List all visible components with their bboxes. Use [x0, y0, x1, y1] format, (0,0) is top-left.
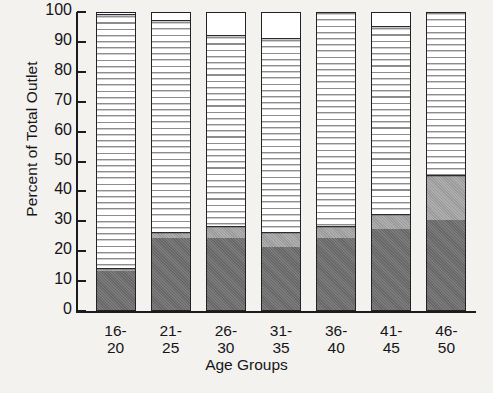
y-axis-title: Percent of Total Outlet — [23, 29, 41, 249]
y-axis-tick: 100 — [77, 11, 86, 13]
bar-segment-dark-gray-segment — [97, 271, 135, 310]
y-axis-tick: 10 — [77, 280, 86, 282]
bar-segment-white-segment — [262, 12, 300, 38]
bar-segment-striped-segment — [152, 20, 190, 232]
y-axis-tick-label: 70 — [54, 91, 72, 109]
bar-segment-white-segment — [152, 12, 190, 20]
y-axis-tick: 80 — [77, 71, 86, 73]
bar-segment-striped-segment — [317, 12, 355, 226]
x-axis-line — [76, 311, 476, 313]
x-label-line-1: 46- — [411, 322, 481, 339]
bar-segment-dark-gray-segment — [372, 229, 410, 310]
y-axis-tick: 50 — [77, 161, 86, 163]
y-axis-tick-label: 40 — [54, 180, 72, 198]
bar-segment-striped-segment — [427, 12, 465, 175]
y-axis-tick: 20 — [77, 250, 86, 252]
y-axis-tick-label: 80 — [54, 61, 72, 79]
bar-36-40 — [316, 12, 356, 311]
bar-segment-dark-gray-segment — [207, 238, 245, 310]
y-axis-tick-label: 20 — [54, 240, 72, 258]
bar-segment-dark-gray-segment — [262, 247, 300, 310]
bar-21-25 — [151, 12, 191, 311]
bar-segment-medium-gray-segment — [372, 214, 410, 229]
y-axis-tick-label: 30 — [54, 210, 72, 228]
bar-31-35 — [261, 12, 301, 311]
stacked-bar-chart: Percent of Total Outlet 0102030405060708… — [0, 0, 493, 393]
y-axis-tick-label: 90 — [54, 31, 72, 49]
y-axis-tick: 40 — [77, 190, 86, 192]
x-label-line-2: 50 — [411, 339, 481, 356]
bar-segment-striped-segment — [97, 14, 135, 268]
plot-area: 0102030405060708090100 16-2021-2526-3031… — [76, 12, 476, 311]
bar-segment-white-segment — [372, 12, 410, 26]
y-axis-tick-label: 0 — [63, 300, 72, 318]
y-axis-tick: 90 — [77, 41, 86, 43]
bar-segment-medium-gray-segment — [427, 175, 465, 220]
bar-41-45 — [371, 12, 411, 311]
y-axis-tick-label: 50 — [54, 151, 72, 169]
bar-26-30 — [206, 12, 246, 311]
x-axis-label-46-50: 46-50 — [411, 322, 481, 356]
y-axis-tick: 60 — [77, 131, 86, 133]
y-axis-tick: 0 — [77, 310, 86, 312]
y-axis-tick-label: 60 — [54, 121, 72, 139]
bar-segment-white-segment — [207, 12, 245, 35]
x-axis-title: Age Groups — [0, 356, 493, 374]
bar-segment-medium-gray-segment — [207, 226, 245, 238]
y-axis-tick-label: 100 — [45, 1, 72, 19]
y-axis-tick: 70 — [77, 101, 86, 103]
bar-segment-dark-gray-segment — [427, 220, 465, 310]
bar-16-20 — [96, 12, 136, 311]
bar-segment-striped-segment — [372, 26, 410, 214]
bar-segment-dark-gray-segment — [317, 238, 355, 310]
bar-segment-dark-gray-segment — [152, 238, 190, 310]
y-axis-tick: 30 — [77, 220, 86, 222]
bar-segment-striped-segment — [262, 38, 300, 232]
bar-segment-medium-gray-segment — [317, 226, 355, 238]
bar-segment-medium-gray-segment — [262, 232, 300, 247]
y-axis-tick-label: 10 — [54, 270, 72, 288]
bar-segment-striped-segment — [207, 35, 245, 226]
bar-46-50 — [426, 12, 466, 311]
